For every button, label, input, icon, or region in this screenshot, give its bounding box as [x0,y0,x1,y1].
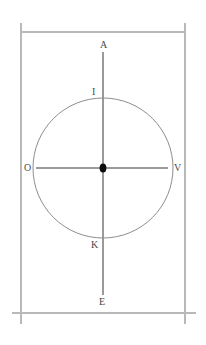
diagram-canvas: A I O V K E [0,0,206,345]
label-v: V [174,163,181,173]
label-e: E [99,297,105,307]
label-k: K [91,240,98,250]
label-i: I [92,87,95,97]
center-marker [100,163,107,172]
label-a: A [100,40,107,50]
label-o: O [24,163,31,173]
